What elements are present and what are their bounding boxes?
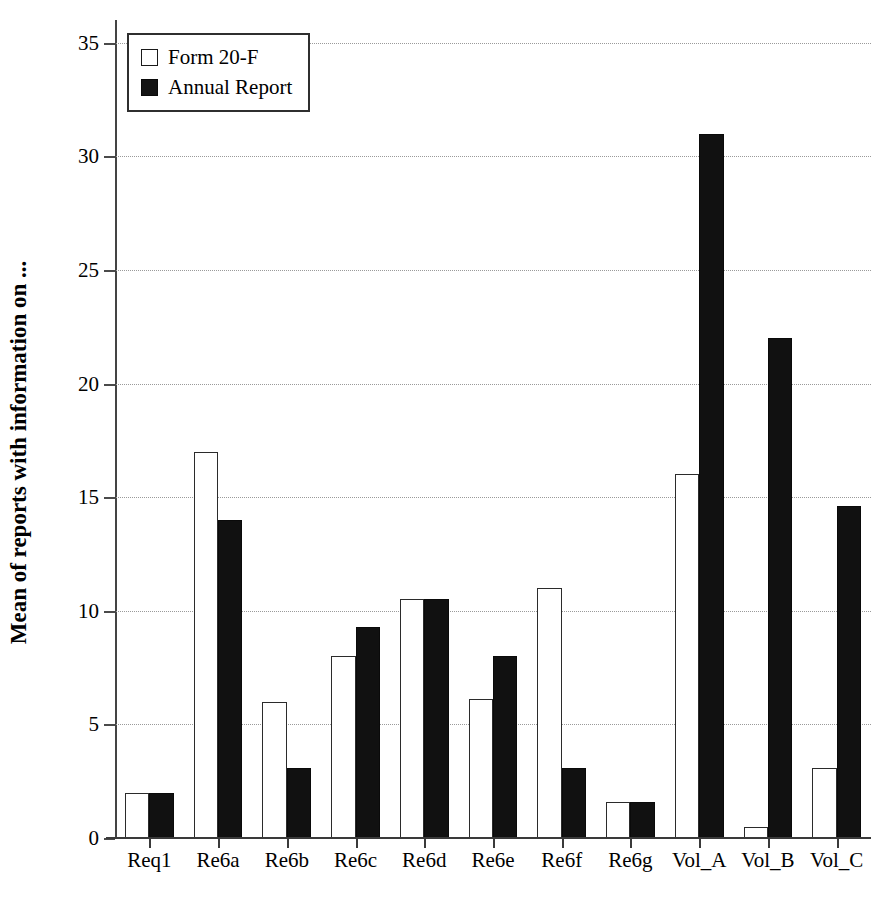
y-axis-tick-label: 0	[53, 826, 99, 851]
x-axis-tick-label: Vol_A	[672, 848, 726, 873]
x-axis-tick-mark	[493, 838, 495, 848]
bar	[812, 768, 836, 838]
x-axis-tick-mark	[837, 838, 839, 848]
legend-item-label: Form 20-F	[168, 45, 258, 70]
bar-group	[194, 20, 243, 838]
x-axis-tick-label: Re6a	[197, 848, 240, 873]
bar-group	[469, 20, 518, 838]
y-axis-tick-label: 20	[53, 371, 99, 396]
bar	[356, 627, 380, 838]
y-axis-tick-mark	[104, 497, 115, 499]
x-axis-tick-label: Re6e	[471, 848, 514, 873]
y-axis-tick-label: 5	[53, 712, 99, 737]
x-axis-tick-label: Re6d	[402, 848, 446, 873]
y-axis-tick-label: 25	[53, 257, 99, 282]
bar	[675, 474, 699, 838]
bar-group	[675, 20, 724, 838]
y-axis-tick-label: 10	[53, 598, 99, 623]
x-axis-tick-label: Vol_B	[741, 848, 794, 873]
filled-square-swatch-icon	[141, 79, 158, 96]
y-axis-tick-mark	[104, 156, 115, 158]
chart-figure: Mean of reports with information on ... …	[0, 0, 887, 905]
x-axis-tick-label: Req1	[127, 848, 171, 873]
bar	[562, 768, 586, 838]
bar	[606, 802, 630, 838]
bar	[194, 452, 218, 838]
x-axis-tick-label: Re6b	[265, 848, 309, 873]
y-axis-tick-label: 35	[53, 30, 99, 55]
y-axis-tick-mark	[104, 384, 115, 386]
x-axis-tick-label: Vol_C	[810, 848, 863, 873]
bar-series-container	[115, 20, 871, 838]
legend-item: Form 20-F	[141, 42, 292, 72]
bar-group	[125, 20, 174, 838]
y-axis-title: Mean of reports with information on ...	[0, 0, 38, 905]
bar-group	[400, 20, 449, 838]
x-axis-tick-mark	[287, 838, 289, 848]
bar	[218, 520, 242, 838]
x-axis-tick-label: Re6g	[608, 848, 652, 873]
x-axis-tick-mark	[149, 838, 151, 848]
y-axis-tick-mark	[104, 724, 115, 726]
bar	[493, 656, 517, 838]
bar	[331, 656, 355, 838]
bar	[149, 793, 173, 838]
y-axis-tick-labels: 05101520253035	[53, 0, 99, 905]
bar	[125, 793, 149, 838]
bar	[537, 588, 561, 838]
x-axis-tick-label: Re6f	[541, 848, 582, 873]
x-axis-tick-labels: Req1Re6aRe6bRe6cRe6dRe6eRe6fRe6gVol_AVol…	[115, 848, 871, 882]
x-axis-line	[106, 837, 871, 839]
x-axis-tick-label: Re6c	[334, 848, 377, 873]
bar-group	[812, 20, 861, 838]
bar	[630, 802, 654, 838]
x-axis-tick-mark	[699, 838, 701, 848]
x-axis-tick-mark	[630, 838, 632, 848]
bar-group	[262, 20, 311, 838]
bar-group	[606, 20, 655, 838]
x-axis-tick-mark	[562, 838, 564, 848]
y-axis-tick-label: 15	[53, 485, 99, 510]
bar	[400, 599, 424, 838]
y-axis-tick-mark	[104, 611, 115, 613]
bar	[424, 599, 448, 838]
legend-item: Annual Report	[141, 72, 292, 102]
plot-area	[115, 20, 871, 838]
bar	[287, 768, 311, 838]
bar	[469, 699, 493, 838]
y-axis-tick-mark	[104, 43, 115, 45]
y-axis-tick-mark	[104, 270, 115, 272]
bar	[768, 338, 792, 838]
bar	[262, 702, 286, 838]
chart-legend: Form 20-F Annual Report	[127, 33, 310, 112]
legend-item-label: Annual Report	[168, 75, 292, 100]
bar	[699, 134, 723, 838]
bar-group	[331, 20, 380, 838]
x-axis-tick-mark	[218, 838, 220, 848]
x-axis-tick-mark	[424, 838, 426, 848]
open-square-swatch-icon	[141, 49, 158, 66]
bar-group	[537, 20, 586, 838]
bar-group	[744, 20, 793, 838]
y-axis-tick-label: 30	[53, 144, 99, 169]
bar	[837, 506, 861, 838]
x-axis-tick-mark	[356, 838, 358, 848]
x-axis-tick-mark	[768, 838, 770, 848]
